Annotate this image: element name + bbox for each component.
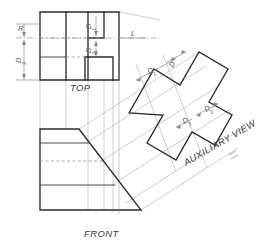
dim-label-top-inner-d2: D <box>84 47 93 53</box>
dim-label-length-top: L <box>131 29 135 38</box>
front-view <box>40 129 141 210</box>
dim-label-aux-d2-sub: 2 <box>208 108 214 115</box>
dim-label-top-inner-d1-sub: 1 <box>91 28 97 31</box>
front-view-label: FRONT <box>84 228 120 239</box>
front-view-outline <box>40 129 141 210</box>
auxiliary-view-label: AUXILIARY VIEW <box>181 117 259 168</box>
dim-label-height-left: D <box>14 57 23 63</box>
dim-label-radius: R <box>18 24 24 33</box>
drawing-canvas: TOP FRONT AUXILIARY VIEW R D 3 L D 1 D 2… <box>0 0 260 246</box>
engineering-drawing-sheet: TOP FRONT AUXILIARY VIEW R D 3 L D 1 D 2… <box>0 0 260 246</box>
top-view-label: TOP <box>70 82 91 93</box>
dim-label-top-inner-d2-sub: 2 <box>91 52 97 56</box>
projection-lines <box>40 12 246 214</box>
text-labels: TOP FRONT AUXILIARY VIEW R D 3 L D 1 D 2… <box>14 23 258 239</box>
dim-label-height-left-sub: 3 <box>21 62 27 65</box>
dim-label-top-inner-d1: D <box>84 23 93 29</box>
top-view-dimensions <box>16 16 146 80</box>
top-view-outline <box>40 12 119 80</box>
top-view-lower-block <box>85 57 113 80</box>
dim-label-aux-d3-sub: 3 <box>187 120 192 127</box>
